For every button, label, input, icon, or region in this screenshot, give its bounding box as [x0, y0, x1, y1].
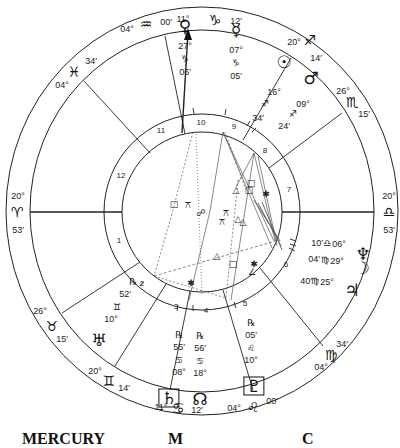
cusp-degree: 26°	[33, 306, 47, 316]
retrograde-icon: ℞	[247, 318, 255, 328]
planet-position-text: 56′	[194, 343, 206, 353]
aspect-symbol-icon: △	[233, 185, 240, 195]
planet-position-text: ♐	[289, 109, 297, 119]
cusp-minutes: 00′	[160, 17, 172, 27]
planet-position-text: 29°	[330, 256, 344, 266]
north-node-icon: ☊	[192, 391, 207, 408]
zodiac-sign-icon: ♈	[11, 205, 24, 219]
planet-position-text: 06°	[332, 239, 346, 249]
planet-position-text: 07°	[229, 45, 243, 55]
zodiac-sign-icon: ♌	[247, 400, 260, 414]
cusp-minutes: 34′	[85, 56, 97, 66]
cusp-degree: 04°	[314, 362, 328, 372]
uranus-icon: ♅	[91, 332, 106, 349]
pluto-icon: ♇	[243, 377, 264, 396]
jupiter-icon: ♃	[344, 282, 359, 299]
planet-position-text: 10°	[104, 314, 118, 324]
cusp-degree: 20°	[11, 191, 25, 201]
cusp-degree: 04°	[227, 403, 241, 413]
retrograde-icon: ℞	[129, 277, 137, 287]
aspect-symbol-icon: ⚻	[219, 217, 225, 228]
zodiac-sign-icon: ♏	[346, 95, 359, 109]
planet-position-text: 10°	[244, 355, 258, 365]
house-number: 11	[157, 126, 165, 135]
planet-position-text: 25°	[320, 277, 334, 287]
cusp-degree: 04°	[120, 24, 134, 34]
house-number: 7	[287, 185, 291, 194]
house-number: 3	[174, 302, 178, 311]
planet-position-text: 08°	[172, 367, 186, 377]
aspect-symbol-icon: ⚻	[185, 200, 191, 211]
cusp-minutes: 15′	[358, 109, 370, 119]
planet-position-text: 34′	[252, 113, 264, 123]
planet-position-text: 04′	[308, 254, 320, 264]
cusp-minutes: 53′	[383, 225, 395, 235]
planet-position-text: 18°	[193, 368, 207, 378]
moon-icon: ☽	[354, 260, 369, 277]
aspect-symbol-icon: □	[245, 185, 254, 195]
planet-position-text: ♎	[323, 238, 331, 248]
aspect-symbol-icon: △	[240, 217, 247, 227]
retrograde-icon: ℞	[175, 330, 183, 340]
aspect-symbol-icon: ✱	[187, 278, 195, 288]
house-number: 9	[232, 122, 236, 131]
planet-position-text: ♑	[232, 58, 240, 68]
planet-position-text: ♑	[181, 54, 189, 64]
planet-position-text: 06′	[179, 67, 191, 77]
zodiac-sign-icon: ♍	[325, 348, 338, 362]
aspect-symbol-icon: △	[214, 251, 221, 261]
house-number: 5	[243, 299, 247, 308]
cusp-degree: 20°	[382, 191, 396, 201]
house-number: 6	[284, 260, 288, 269]
venus-icon: ♀	[179, 18, 191, 35]
planet-position-text: ♍	[311, 276, 319, 286]
sun-icon: ☉	[276, 54, 291, 71]
cusp-minutes: 34′	[336, 339, 348, 349]
planet-position-text: ♌	[247, 343, 255, 353]
aspect-symbol-icon: □	[170, 199, 179, 209]
planet-position-text: ♐	[261, 99, 269, 109]
zodiac-sign-icon: ♊	[103, 374, 116, 388]
planet-position-text: 24′	[278, 121, 290, 131]
aspect-symbol-icon: ☍	[196, 208, 205, 218]
house-number: 12	[117, 171, 126, 180]
zodiac-sign-icon: ♑	[209, 13, 222, 27]
cusp-minutes: 14′	[310, 53, 322, 63]
cusp-degree: 20°	[287, 37, 301, 47]
retrograde-icon: ℞	[196, 331, 204, 341]
mercury-icon: ☿	[231, 22, 241, 39]
cusp-minutes: 15′	[56, 334, 68, 344]
aspect-lines	[154, 132, 282, 300]
planet-position-text: ♋	[196, 356, 204, 366]
planet-position-text: 05′	[245, 330, 257, 340]
zodiac-sign-icon: ♒	[140, 17, 153, 31]
cusp-minutes: 00′	[266, 396, 278, 406]
house-number: 1	[117, 236, 121, 245]
planet-position-text: 05′	[230, 71, 242, 81]
planet-position-text: 16°	[267, 87, 281, 97]
cusp-degree: 04°	[55, 80, 69, 90]
house-number: 4	[204, 306, 208, 315]
aspect-symbol-icon: ✱	[262, 189, 270, 199]
footer-label-3: C	[302, 430, 314, 448]
zodiac-sign-icon: ♎	[383, 205, 396, 219]
cusp-degree: 20°	[88, 366, 102, 376]
planet-position-text: ♋	[175, 355, 183, 365]
saturn-icon: ♄	[158, 389, 179, 408]
planet-position-text: 52′	[119, 289, 131, 299]
cusp-minutes: 53′	[12, 225, 24, 235]
zodiac-sign-icon: ♓	[68, 65, 81, 79]
planet-position-text: ♊	[113, 302, 121, 312]
planet-position-text: 10′	[311, 238, 323, 248]
aspect-symbol-icon: ∠	[248, 267, 256, 277]
planet-position-text: 09°	[296, 99, 310, 109]
house-number: 2	[140, 279, 144, 288]
planet-position-text: 27°	[178, 41, 192, 51]
cusp-minutes: 14′	[118, 383, 130, 393]
planet-position-text: 55′	[173, 342, 185, 352]
footer-label-1: MERCURY	[22, 430, 105, 448]
aspect-symbol-icon: □	[229, 259, 238, 269]
planet-position-text: ♍	[321, 255, 329, 265]
zodiac-sign-icon: ♐	[304, 33, 317, 47]
zodiac-sign-icon: ♉	[46, 319, 59, 333]
